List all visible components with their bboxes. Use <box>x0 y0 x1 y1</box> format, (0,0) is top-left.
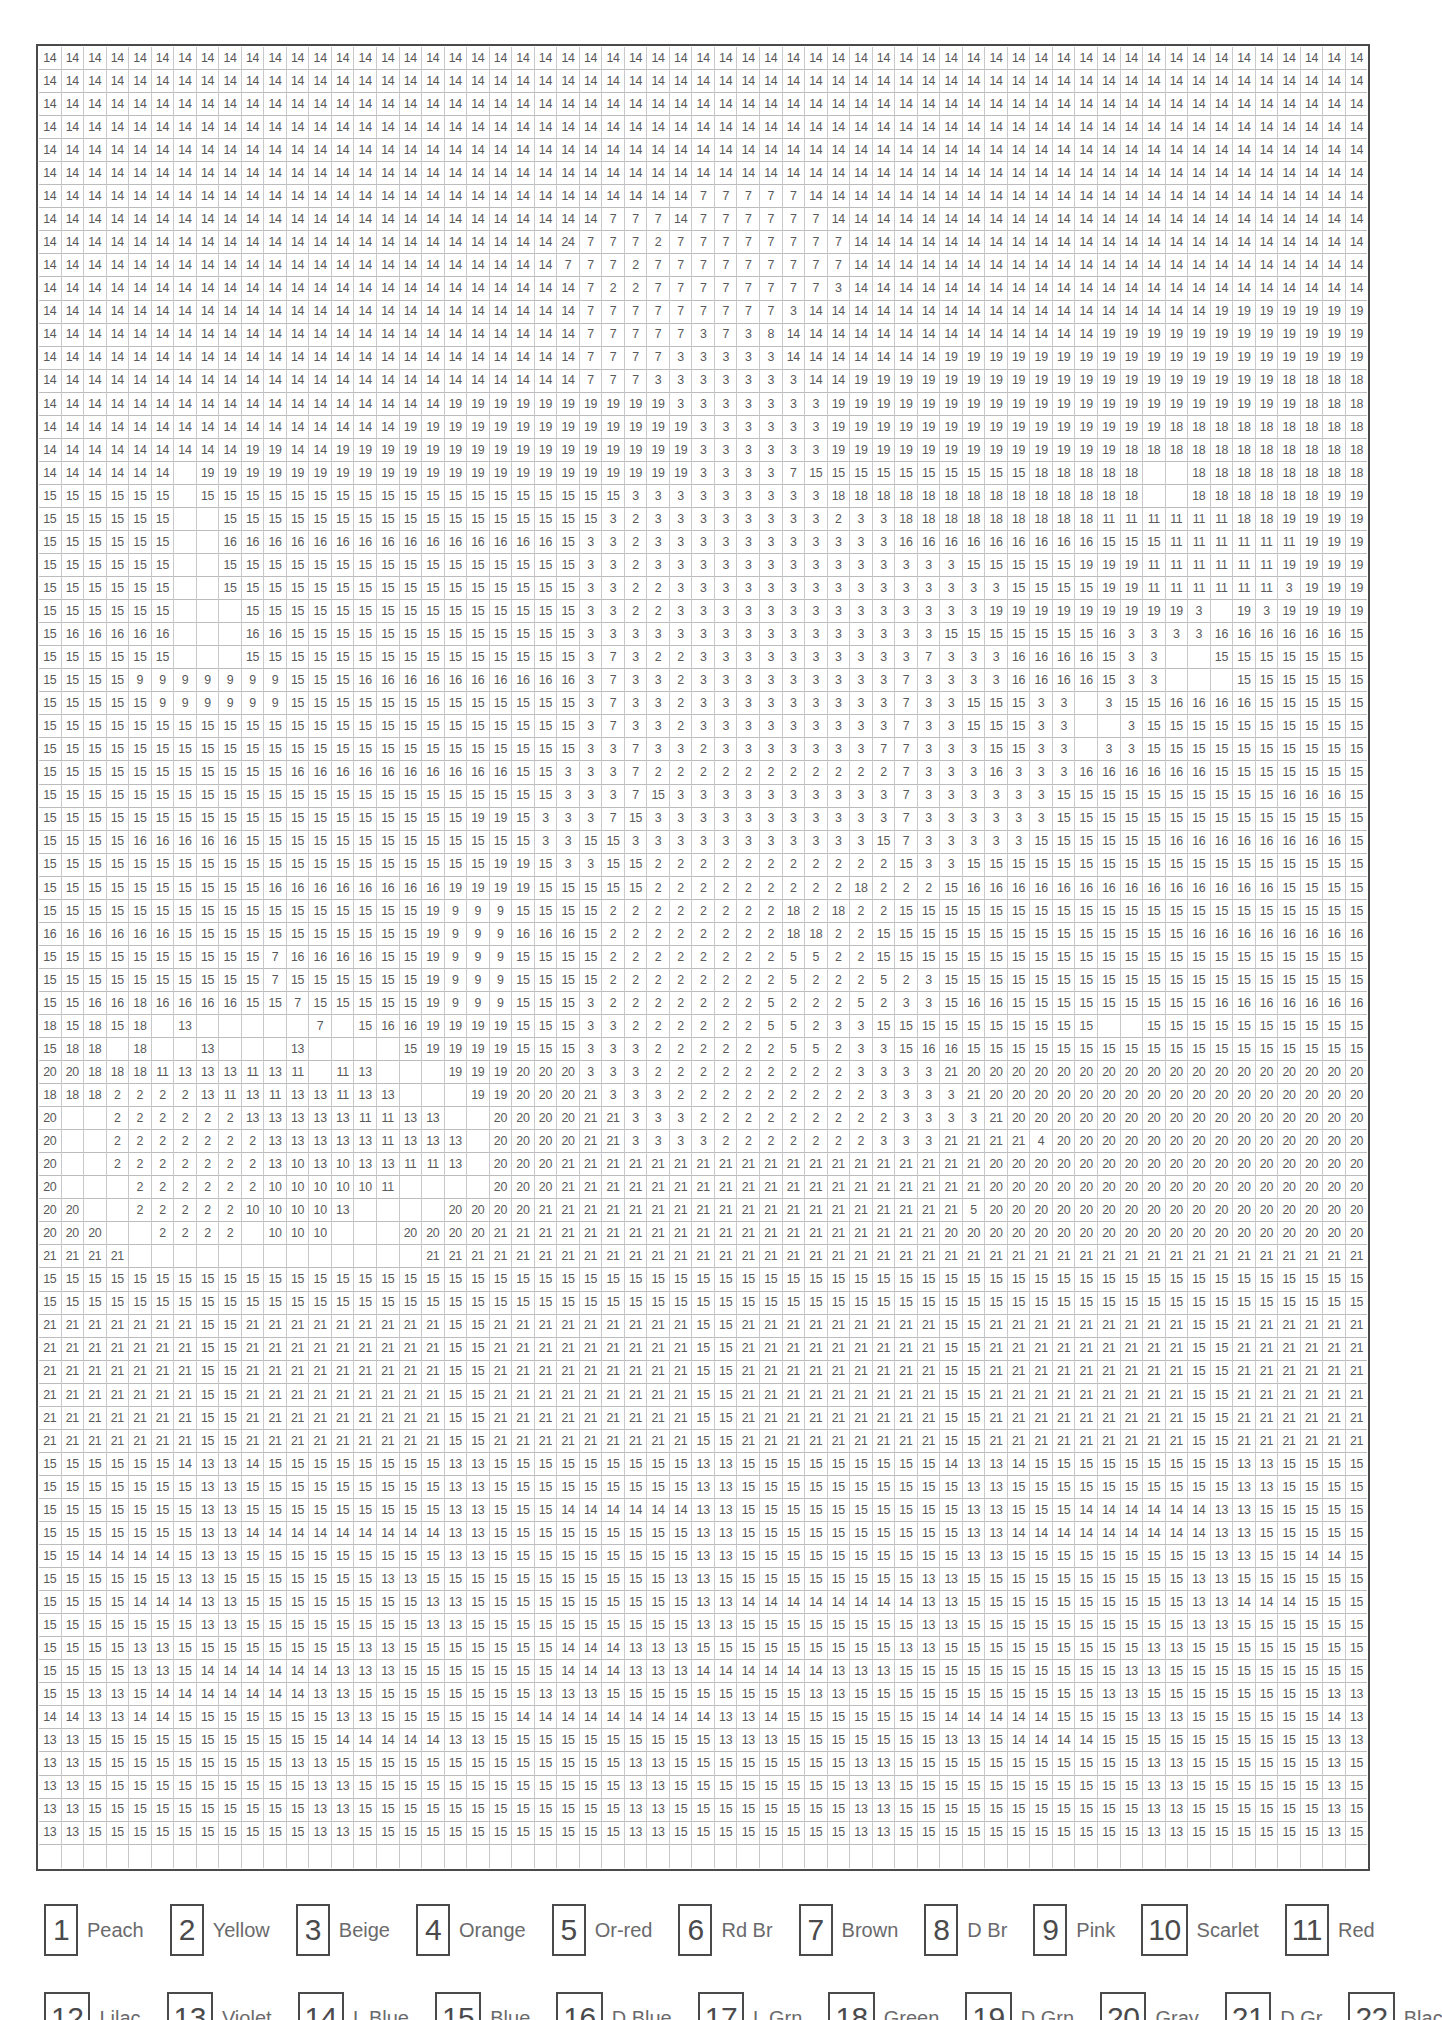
grid-cell[interactable]: 19 <box>197 462 220 485</box>
grid-cell[interactable]: 14 <box>783 162 806 185</box>
grid-cell[interactable]: 16 <box>490 669 513 692</box>
grid-cell[interactable]: 3 <box>963 761 986 784</box>
grid-cell[interactable]: 14 <box>39 393 62 416</box>
grid-cell[interactable]: 21 <box>918 1407 941 1430</box>
grid-cell[interactable]: 15 <box>580 1799 603 1822</box>
grid-cell[interactable]: 15 <box>602 877 625 900</box>
grid-cell[interactable]: 14 <box>1188 1522 1211 1545</box>
grid-cell[interactable]: 15 <box>512 1268 535 1291</box>
grid-cell[interactable]: 15 <box>1211 1268 1234 1291</box>
grid-cell[interactable]: 2 <box>152 1199 175 1222</box>
grid-cell[interactable] <box>107 1845 130 1868</box>
grid-cell[interactable]: 20 <box>84 1222 107 1245</box>
grid-cell[interactable]: 15 <box>84 508 107 531</box>
grid-cell[interactable]: 15 <box>174 1292 197 1315</box>
grid-cell[interactable]: 15 <box>1301 877 1324 900</box>
grid-cell[interactable]: 14 <box>242 1683 265 1706</box>
grid-cell[interactable]: 15 <box>512 1752 535 1775</box>
grid-cell[interactable]: 15 <box>783 1545 806 1568</box>
grid-cell[interactable]: 18 <box>84 1038 107 1061</box>
grid-cell[interactable]: 15 <box>287 1499 310 1522</box>
grid-cell[interactable]: 14 <box>1256 231 1279 254</box>
grid-cell[interactable]: 3 <box>692 646 715 669</box>
grid-cell[interactable]: 15 <box>400 1545 423 1568</box>
grid-cell[interactable]: 15 <box>1256 1268 1279 1291</box>
grid-cell[interactable]: 16 <box>985 761 1008 784</box>
grid-cell[interactable]: 15 <box>1143 923 1166 946</box>
grid-cell[interactable]: 14 <box>647 1706 670 1729</box>
grid-cell[interactable]: 16 <box>1053 646 1076 669</box>
grid-cell[interactable]: 7 <box>602 808 625 831</box>
grid-cell[interactable]: 16 <box>152 831 175 854</box>
grid-cell[interactable]: 15 <box>1143 692 1166 715</box>
grid-cell[interactable]: 15 <box>1233 1799 1256 1822</box>
grid-cell[interactable]: 15 <box>242 1729 265 1752</box>
grid-cell[interactable]: 14 <box>850 116 873 139</box>
grid-cell[interactable]: 21 <box>1121 1315 1144 1338</box>
grid-cell[interactable]: 15 <box>783 1268 806 1291</box>
grid-cell[interactable]: 15 <box>174 1637 197 1660</box>
grid-cell[interactable]: 15 <box>1030 1499 1053 1522</box>
grid-cell[interactable]: 15 <box>692 1776 715 1799</box>
grid-cell[interactable]: 19 <box>1166 324 1189 347</box>
grid-cell[interactable]: 15 <box>1301 1568 1324 1591</box>
grid-cell[interactable]: 15 <box>264 808 287 831</box>
grid-cell[interactable]: 21 <box>1075 1245 1098 1268</box>
grid-cell[interactable]: 14 <box>1323 231 1346 254</box>
grid-cell[interactable]: 15 <box>84 1637 107 1660</box>
grid-cell[interactable]: 15 <box>1075 1038 1098 1061</box>
grid-cell[interactable]: 19 <box>490 462 513 485</box>
grid-cell[interactable]: 14 <box>985 254 1008 277</box>
grid-cell[interactable]: 14 <box>287 70 310 93</box>
grid-cell[interactable]: 15 <box>1030 969 1053 992</box>
grid-cell[interactable]: 14 <box>422 277 445 300</box>
grid-cell[interactable]: 15 <box>535 1729 558 1752</box>
grid-cell[interactable]: 2 <box>760 1107 783 1130</box>
grid-cell[interactable]: 3 <box>625 1038 648 1061</box>
grid-cell[interactable]: 13 <box>692 1453 715 1476</box>
grid-cell[interactable]: 21 <box>422 1430 445 1453</box>
grid-cell[interactable]: 14 <box>174 1453 197 1476</box>
grid-cell[interactable]: 14 <box>1098 277 1121 300</box>
grid-cell[interactable]: 2 <box>828 854 851 877</box>
grid-cell[interactable]: 15 <box>805 1799 828 1822</box>
grid-cell[interactable]: 15 <box>1121 1545 1144 1568</box>
grid-cell[interactable]: 15 <box>1233 738 1256 761</box>
grid-cell[interactable]: 13 <box>400 1568 423 1591</box>
grid-cell[interactable]: 21 <box>783 1361 806 1384</box>
grid-cell[interactable]: 3 <box>692 531 715 554</box>
grid-cell[interactable]: 15 <box>828 1706 851 1729</box>
grid-cell[interactable]: 20 <box>1301 1107 1324 1130</box>
grid-cell[interactable]: 14 <box>354 347 377 370</box>
grid-cell[interactable]: 20 <box>1075 1222 1098 1245</box>
grid-cell[interactable]: 2 <box>783 1084 806 1107</box>
grid-cell[interactable]: 15 <box>287 1568 310 1591</box>
grid-cell[interactable]: 21 <box>1008 1338 1031 1361</box>
grid-cell[interactable] <box>287 1845 310 1868</box>
grid-cell[interactable]: 14 <box>535 324 558 347</box>
grid-cell[interactable]: 19 <box>1121 600 1144 623</box>
grid-cell[interactable]: 14 <box>129 185 152 208</box>
grid-cell[interactable]: 21 <box>580 1245 603 1268</box>
grid-cell[interactable]: 15 <box>129 900 152 923</box>
grid-cell[interactable]: 18 <box>1256 508 1279 531</box>
grid-cell[interactable]: 15 <box>400 831 423 854</box>
grid-cell[interactable]: 14 <box>219 1683 242 1706</box>
grid-cell[interactable]: 13 <box>62 1799 85 1822</box>
grid-cell[interactable]: 20 <box>39 1222 62 1245</box>
grid-cell[interactable]: 15 <box>805 1822 828 1845</box>
grid-cell[interactable]: 14 <box>62 93 85 116</box>
grid-cell[interactable]: 15 <box>107 531 130 554</box>
grid-cell[interactable]: 16 <box>963 992 986 1015</box>
grid-cell[interactable]: 7 <box>895 738 918 761</box>
grid-cell[interactable]: 15 <box>715 1637 738 1660</box>
grid-cell[interactable]: 15 <box>873 1015 896 1038</box>
grid-cell[interactable]: 19 <box>467 393 490 416</box>
grid-cell[interactable]: 2 <box>692 969 715 992</box>
grid-cell[interactable]: 15 <box>264 1614 287 1637</box>
grid-cell[interactable]: 15 <box>332 969 355 992</box>
grid-cell[interactable]: 2 <box>760 900 783 923</box>
grid-cell[interactable]: 14 <box>400 93 423 116</box>
grid-cell[interactable]: 15 <box>692 1361 715 1384</box>
grid-cell[interactable]: 15 <box>1166 1038 1189 1061</box>
